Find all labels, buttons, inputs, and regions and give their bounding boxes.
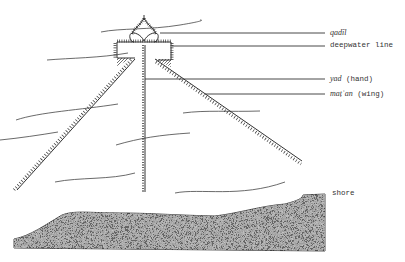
label-matan-gloss: (wing) xyxy=(357,90,384,98)
left-wing xyxy=(13,59,135,191)
fish-trap-diagram xyxy=(0,0,405,262)
label-matan: maṭʿan (wing) xyxy=(330,90,384,99)
label-yad: yad (hand) xyxy=(330,75,373,84)
label-shore: shore xyxy=(332,190,355,198)
shore-landmass xyxy=(14,194,325,251)
label-leader-lines xyxy=(145,33,325,94)
label-yad-gloss: (hand) xyxy=(346,75,373,83)
label-matan-term: maṭʿan xyxy=(330,89,353,98)
yad-center-post xyxy=(143,45,145,192)
label-deepwater-line: deepwater line xyxy=(330,42,393,50)
label-qadil: qadīl xyxy=(330,29,346,37)
label-yad-term: yad xyxy=(330,74,342,83)
